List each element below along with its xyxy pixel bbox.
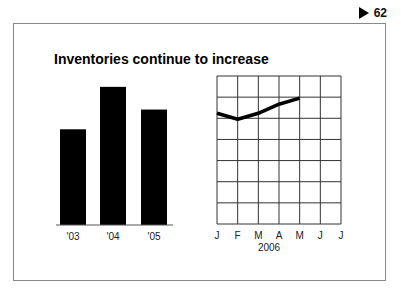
x-tick-label: A [276,230,283,241]
x-tick-label: '05 [147,231,160,242]
x-tick-label: J [215,230,220,241]
bar [60,129,86,225]
x-tick-label: M [295,230,303,241]
charts-canvas: '03'04'05 JFMAMJJ2006 [0,0,401,296]
x-tick-label: '03 [66,231,79,242]
bar [141,110,167,225]
x-axis-label: 2006 [258,242,281,253]
bar [100,87,126,225]
x-tick-label: F [235,230,241,241]
bar-chart: '03'04'05 [56,87,173,242]
x-tick-label: M [254,230,262,241]
line-chart: JFMAMJJ2006 [215,76,344,253]
x-tick-label: J [318,230,323,241]
x-tick-label: J [339,230,344,241]
x-tick-label: '04 [106,231,119,242]
